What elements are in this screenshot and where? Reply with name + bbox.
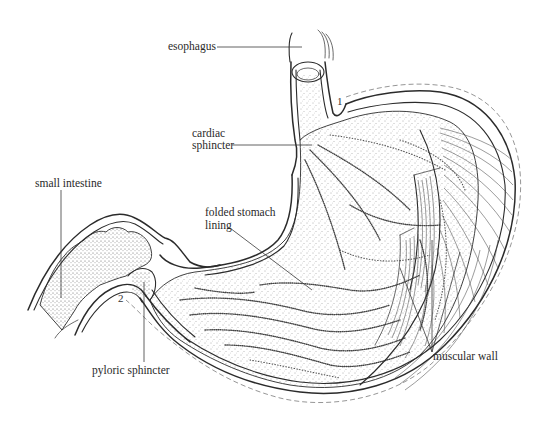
marker-2: 2 xyxy=(118,292,124,304)
label-cardiac-sphincter-line1: cardiac xyxy=(192,127,225,140)
label-folded-stomach-lining-line2: lining xyxy=(205,219,232,232)
marker-1: 1 xyxy=(337,95,343,107)
label-pyloric-sphincter: pyloric sphincter xyxy=(92,364,170,377)
label-folded-stomach-lining-line1: folded stomach xyxy=(205,206,276,219)
label-esophagus: esophagus xyxy=(168,40,216,53)
stomach-diagram: esophagus cardiac sphincter small intest… xyxy=(0,0,552,424)
label-cardiac-sphincter-line2: sphincter xyxy=(192,139,234,152)
label-muscular-wall: muscular wall xyxy=(433,350,498,363)
label-small-intestine: small intestine xyxy=(35,177,102,190)
